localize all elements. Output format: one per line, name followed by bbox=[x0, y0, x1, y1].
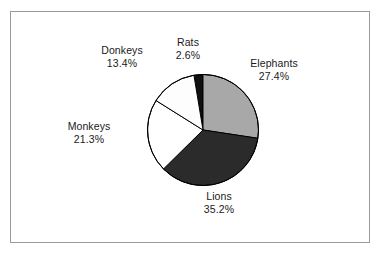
pie-label-rats-value: 2.6% bbox=[160, 49, 216, 62]
pie-label-elephants-value: 27.4% bbox=[232, 70, 316, 83]
pie-label-rats: Rats 2.6% bbox=[160, 36, 216, 62]
pie-label-lions-name: Lions bbox=[186, 190, 252, 203]
pie-slice-elephants bbox=[203, 75, 259, 139]
pie-label-donkeys: Donkeys 13.4% bbox=[84, 44, 160, 70]
pie-label-lions-value: 35.2% bbox=[186, 203, 252, 216]
pie-label-lions: Lions 35.2% bbox=[186, 190, 252, 216]
pie-label-rats-name: Rats bbox=[160, 36, 216, 49]
pie-label-elephants: Elephants 27.4% bbox=[232, 57, 316, 83]
pie-label-donkeys-value: 13.4% bbox=[84, 57, 160, 70]
pie-slice-group bbox=[147, 75, 258, 186]
pie-chart-figure: Donkeys 13.4% Rats 2.6% Elephants 27.4% … bbox=[0, 0, 391, 260]
pie-label-donkeys-name: Donkeys bbox=[84, 44, 160, 57]
chart-plot-area: Donkeys 13.4% Rats 2.6% Elephants 27.4% … bbox=[0, 0, 391, 260]
pie-label-monkeys-name: Monkeys bbox=[50, 120, 128, 133]
pie-label-elephants-name: Elephants bbox=[232, 57, 316, 70]
pie-label-monkeys: Monkeys 21.3% bbox=[50, 120, 128, 146]
pie-label-monkeys-value: 21.3% bbox=[50, 133, 128, 146]
